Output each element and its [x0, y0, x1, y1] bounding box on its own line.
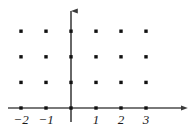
lattice-point: [94, 81, 97, 84]
lattice-point: [44, 106, 47, 109]
lattice-point: [119, 81, 122, 84]
x-tick-label: 2: [118, 113, 125, 126]
lattice-point: [19, 106, 22, 109]
lattice-point: [94, 106, 97, 109]
lattice-point: [19, 55, 22, 58]
lattice-point: [69, 81, 72, 84]
lattice-point: [144, 30, 147, 33]
lattice-point: [69, 106, 72, 109]
lattice-point: [69, 55, 72, 58]
lattice-point: [69, 30, 72, 33]
lattice-point: [119, 106, 122, 109]
x-tick-label: −1: [38, 113, 53, 126]
lattice-point: [44, 55, 47, 58]
lattice-points-group: [19, 30, 147, 110]
lattice-plot-figure: −2−1123: [0, 0, 195, 131]
x-tick-label: 3: [143, 113, 150, 126]
lattice-point: [19, 81, 22, 84]
lattice-point: [94, 55, 97, 58]
lattice-point: [144, 81, 147, 84]
lattice-point: [144, 55, 147, 58]
lattice-point: [119, 55, 122, 58]
lattice-point: [119, 30, 122, 33]
x-tick-label: −2: [13, 113, 28, 126]
x-tick-label: 1: [93, 113, 100, 126]
lattice-point: [19, 30, 22, 33]
lattice-point: [94, 30, 97, 33]
lattice-point: [44, 30, 47, 33]
axes-group: [8, 11, 181, 122]
lattice-point: [144, 106, 147, 109]
lattice-point: [44, 81, 47, 84]
